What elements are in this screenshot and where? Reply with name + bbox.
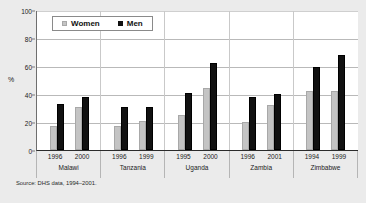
x-country-label: Uganda — [165, 164, 228, 172]
bar-pair — [114, 11, 128, 150]
x-year-label: 2000 — [74, 153, 90, 161]
bar-tanzania-1996-women — [114, 126, 121, 150]
x-year-label: 1995 — [176, 153, 192, 161]
x-country-label: Zambia — [230, 164, 293, 172]
x-group-uganda: 19952000Uganda — [164, 151, 228, 178]
x-year-labels: 19962000 — [37, 153, 100, 161]
x-country-label: Zimbabwe — [294, 164, 357, 172]
bar-group — [101, 11, 165, 150]
y-tick-label: 60 — [14, 64, 32, 71]
y-tick-mark — [32, 95, 35, 96]
y-axis: 020406080100 — [12, 0, 32, 203]
legend-label-men: Men — [127, 19, 143, 28]
bar-chart: % 020406080100 19962000Malawi19961999Tan… — [0, 0, 366, 203]
bar-zambia-2001-men — [274, 94, 281, 150]
x-year-label: 1996 — [240, 153, 256, 161]
y-tick-mark — [32, 11, 35, 12]
chart-legend: Women Men — [52, 16, 153, 31]
bar-uganda-1995-men — [185, 93, 192, 150]
x-year-labels: 19961999 — [101, 153, 164, 161]
bar-malawi-2000-women — [75, 107, 82, 150]
bar-zambia-2001-women — [267, 105, 274, 150]
y-tick-label: 100 — [14, 8, 32, 15]
bar-uganda-1995-women — [178, 115, 185, 150]
bar-zimbabwe-1999-women — [331, 91, 338, 150]
bar-pairs — [230, 11, 294, 150]
bar-pair — [331, 11, 345, 150]
bar-zimbabwe-1999-men — [338, 55, 345, 150]
bar-group — [230, 11, 294, 150]
legend-swatch-men-icon — [118, 21, 123, 26]
bar-uganda-2000-women — [203, 88, 210, 150]
y-tick-label: 20 — [14, 120, 32, 127]
bar-pair — [178, 11, 192, 150]
bar-pairs — [294, 11, 358, 150]
x-year-label: 1994 — [304, 153, 320, 161]
bar-zambia-1996-men — [249, 97, 256, 150]
y-tick-label: 40 — [14, 92, 32, 99]
x-country-label: Tanzania — [101, 164, 164, 172]
legend-label-women: Women — [71, 19, 100, 28]
legend-item-men: Men — [118, 19, 143, 28]
legend-item-women: Women — [62, 19, 100, 28]
bar-pairs — [165, 11, 229, 150]
bar-zambia-1996-women — [242, 122, 249, 150]
x-year-labels: 19941999 — [294, 153, 357, 161]
plot-area — [36, 11, 358, 151]
bar-malawi-1996-women — [50, 126, 57, 150]
bar-pair — [203, 11, 217, 150]
x-year-label: 1996 — [111, 153, 127, 161]
x-year-label: 1996 — [47, 153, 63, 161]
bar-pair — [242, 11, 256, 150]
bar-pair — [267, 11, 281, 150]
bar-group — [165, 11, 229, 150]
bar-zimbabwe-1994-women — [306, 91, 313, 150]
source-note: Source: DHS data, 1994–2001. — [16, 180, 97, 187]
x-year-labels: 19952000 — [165, 153, 228, 161]
y-tick-mark — [32, 123, 35, 124]
x-country-label: Malawi — [37, 164, 100, 172]
x-year-label: 1999 — [138, 153, 154, 161]
bar-group — [294, 11, 358, 150]
x-group-malawi: 19962000Malawi — [36, 151, 100, 178]
bar-pairs — [37, 11, 101, 150]
y-tick-label: 0 — [14, 148, 32, 155]
bar-malawi-1996-men — [57, 104, 64, 150]
bar-uganda-2000-men — [210, 63, 217, 150]
y-tick-mark — [32, 67, 35, 68]
x-axis: 19962000Malawi19961999Tanzania19952000Ug… — [36, 151, 358, 178]
x-year-label: 2001 — [267, 153, 283, 161]
bar-group — [37, 11, 101, 150]
bar-pair — [50, 11, 64, 150]
y-tick-mark — [32, 151, 35, 152]
bar-malawi-2000-men — [82, 97, 89, 150]
x-group-tanzania: 19961999Tanzania — [100, 151, 164, 178]
y-tick-mark — [32, 39, 35, 40]
y-tick-label: 80 — [14, 36, 32, 43]
bar-zimbabwe-1994-men — [313, 67, 320, 150]
bar-tanzania-1996-men — [121, 107, 128, 150]
x-year-labels: 19962001 — [230, 153, 293, 161]
bar-pairs — [101, 11, 165, 150]
bar-tanzania-1999-women — [139, 121, 146, 150]
bar-pair — [306, 11, 320, 150]
bar-pair — [75, 11, 89, 150]
x-group-zimbabwe: 19941999Zimbabwe — [293, 151, 358, 178]
bar-tanzania-1999-men — [146, 107, 153, 150]
bar-pair — [139, 11, 153, 150]
x-year-label: 1999 — [331, 153, 347, 161]
x-group-zambia: 19962001Zambia — [229, 151, 293, 178]
legend-swatch-women-icon — [62, 21, 67, 26]
x-year-label: 2000 — [203, 153, 219, 161]
bar-groups — [37, 11, 358, 150]
